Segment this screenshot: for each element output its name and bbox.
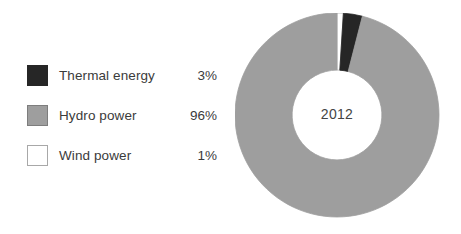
- donut-center-label: 2012: [321, 106, 353, 122]
- donut-svg: 2012: [235, 13, 440, 234]
- legend-item-label: Thermal energy: [59, 68, 155, 83]
- legend-item-hydro-power[interactable]: Hydro power 96%: [27, 95, 217, 135]
- legend-item-value: 1%: [197, 148, 217, 163]
- legend-item-label: Hydro power: [59, 108, 137, 123]
- legend-item-label: Wind power: [59, 148, 131, 163]
- legend-item-value: 96%: [190, 108, 217, 123]
- legend-item-thermal-energy[interactable]: Thermal energy 3%: [27, 55, 217, 95]
- donut-plot-area: 2012: [235, 13, 440, 234]
- legend-item-wind-power[interactable]: Wind power 1%: [27, 135, 217, 175]
- donut-chart-figure: Thermal energy 3% Hydro power 96% Wind p…: [0, 0, 461, 234]
- legend-swatch-hydro-icon: [27, 105, 48, 126]
- legend-swatch-wind-icon: [27, 145, 48, 166]
- legend-item-value: 3%: [197, 68, 217, 83]
- legend-swatch-thermal-icon: [27, 65, 48, 86]
- chart-legend: Thermal energy 3% Hydro power 96% Wind p…: [27, 55, 217, 175]
